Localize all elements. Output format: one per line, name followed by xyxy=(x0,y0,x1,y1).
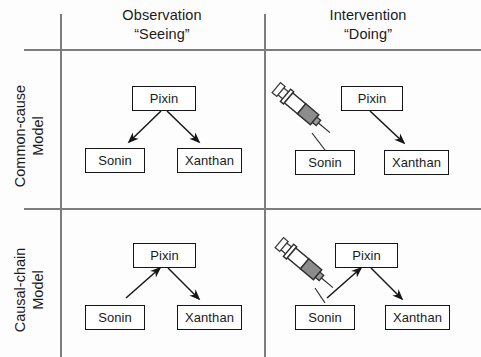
grid-rule-horizontal-middle xyxy=(24,208,481,210)
column-header-observation-line2: “Seeing” xyxy=(62,25,262,44)
column-header-intervention: Intervention “Doing” xyxy=(268,6,468,44)
arrows-overlay xyxy=(0,0,481,357)
syringe-icon-common-cause-intervention xyxy=(0,0,481,357)
edges-common-cause-observation xyxy=(129,111,199,142)
node-xanthan-causal-chain-intervention[interactable]: Xanthan xyxy=(385,305,450,330)
node-pixin-common-cause-observation[interactable]: Pixin xyxy=(132,86,196,111)
column-header-observation-line1: Observation xyxy=(122,7,201,23)
node-pixin-causal-chain-intervention[interactable]: Pixin xyxy=(335,243,398,268)
column-header-observation: Observation “Seeing” xyxy=(62,6,262,44)
node-xanthan-causal-chain-observation[interactable]: Xanthan xyxy=(177,305,242,330)
node-label: Sonin xyxy=(308,311,342,324)
node-pixin-common-cause-intervention[interactable]: Pixin xyxy=(341,86,403,111)
node-label: Xanthan xyxy=(185,311,234,324)
node-sonin-causal-chain-observation[interactable]: Sonin xyxy=(85,305,145,330)
row-header-common-cause-line2: Model xyxy=(29,61,47,211)
node-label: Sonin xyxy=(98,311,132,324)
row-header-causal-chain-line2: Model xyxy=(29,215,47,357)
row-header-common-cause: Common-cause Model xyxy=(11,61,47,211)
row-header-causal-chain: Causal-chain Model xyxy=(11,215,47,357)
node-label: Sonin xyxy=(308,156,342,169)
node-label: Xanthan xyxy=(185,154,234,167)
causal-model-figure: Observation “Seeing” Intervention “Doing… xyxy=(0,0,481,357)
node-label: Xanthan xyxy=(393,311,442,324)
grid-rule-horizontal-top xyxy=(24,49,481,51)
grid-rule-vertical-left xyxy=(60,14,62,357)
node-sonin-causal-chain-intervention[interactable]: Sonin xyxy=(295,305,355,330)
row-header-causal-chain-line1: Causal-chain xyxy=(12,248,28,333)
column-header-intervention-line2: “Doing” xyxy=(268,25,468,44)
edges-causal-chain-intervention xyxy=(327,268,402,299)
node-label: Pixin xyxy=(150,249,179,262)
node-label: Pixin xyxy=(358,92,387,105)
node-xanthan-common-cause-intervention[interactable]: Xanthan xyxy=(384,150,449,175)
node-label: Pixin xyxy=(352,249,381,262)
edges-common-cause-intervention xyxy=(370,111,404,143)
edges-causal-chain-observation xyxy=(126,268,199,299)
node-sonin-common-cause-intervention[interactable]: Sonin xyxy=(295,150,355,175)
node-label: Xanthan xyxy=(392,156,441,169)
grid-rule-vertical-middle xyxy=(264,14,266,357)
node-sonin-common-cause-observation[interactable]: Sonin xyxy=(85,148,145,173)
syringe-icon-causal-chain-intervention xyxy=(0,0,481,357)
node-xanthan-common-cause-observation[interactable]: Xanthan xyxy=(177,148,242,173)
node-label: Pixin xyxy=(150,92,179,105)
row-header-common-cause-line1: Common-cause xyxy=(12,85,28,187)
node-pixin-causal-chain-observation[interactable]: Pixin xyxy=(133,243,196,268)
column-header-intervention-line1: Intervention xyxy=(330,7,407,23)
node-label: Sonin xyxy=(98,154,132,167)
